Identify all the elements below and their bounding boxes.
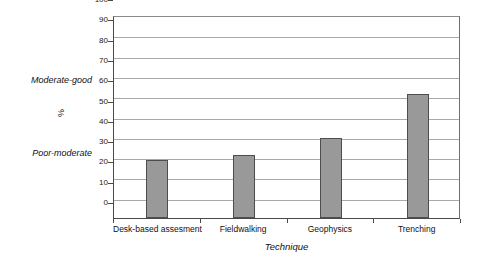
bar (320, 138, 342, 218)
x-axis-tick-mark (200, 219, 201, 223)
x-axis-tick-mark (113, 219, 114, 223)
y-axis-tick-label: 0 (82, 199, 108, 207)
bar (233, 155, 255, 218)
y-axis-tick-label: 40 (82, 118, 108, 126)
x-axis-category-label: Trenching (373, 224, 460, 234)
bar (146, 160, 168, 218)
y-axis-tick-mark (108, 122, 113, 123)
x-axis-category-label: Desk-based assesment (113, 224, 200, 234)
y-axis-tick-label: 70 (82, 57, 108, 65)
y-axis-tick-mark (108, 61, 113, 62)
y-axis-tick-label: 80 (82, 37, 108, 45)
y-axis-tick-mark (108, 0, 113, 1)
x-axis-category-label: Fieldwalking (200, 224, 287, 234)
plot-area (113, 16, 460, 219)
y-axis-tick-mark (108, 41, 113, 42)
y-axis-tick-label: 30 (82, 138, 108, 146)
y-axis-tick-mark (108, 183, 113, 184)
x-axis-tick-mark (287, 219, 288, 223)
y-axis-tick-label: 20 (82, 158, 108, 166)
y-axis-tick-label: 90 (82, 16, 108, 24)
y-axis-ticks: 0102030405060708090100 (78, 0, 108, 203)
bar-chart: % Moderate-good Poor-moderate 0102030405… (0, 0, 479, 267)
y-axis-tick-mark (108, 20, 113, 21)
y-axis-tick-mark (108, 81, 113, 82)
y-axis-tick-label: 60 (82, 77, 108, 85)
bar (407, 94, 429, 218)
y-axis-tick-mark (108, 162, 113, 163)
y-axis-unit-label: % (56, 98, 66, 128)
y-axis-tick-mark (108, 102, 113, 103)
y-axis-tick-mark (108, 142, 113, 143)
y-axis-tick-mark (108, 203, 113, 204)
y-axis-tick-label: 100 (82, 0, 108, 4)
x-axis-tick-mark (460, 219, 461, 223)
x-axis-category-label: Geophysics (287, 224, 374, 234)
bar-series (114, 17, 459, 218)
y-axis-tick-label: 50 (82, 98, 108, 106)
y-axis-tick-label: 10 (82, 179, 108, 187)
x-axis-tick-mark (373, 219, 374, 223)
x-axis-title: Technique (113, 241, 460, 252)
